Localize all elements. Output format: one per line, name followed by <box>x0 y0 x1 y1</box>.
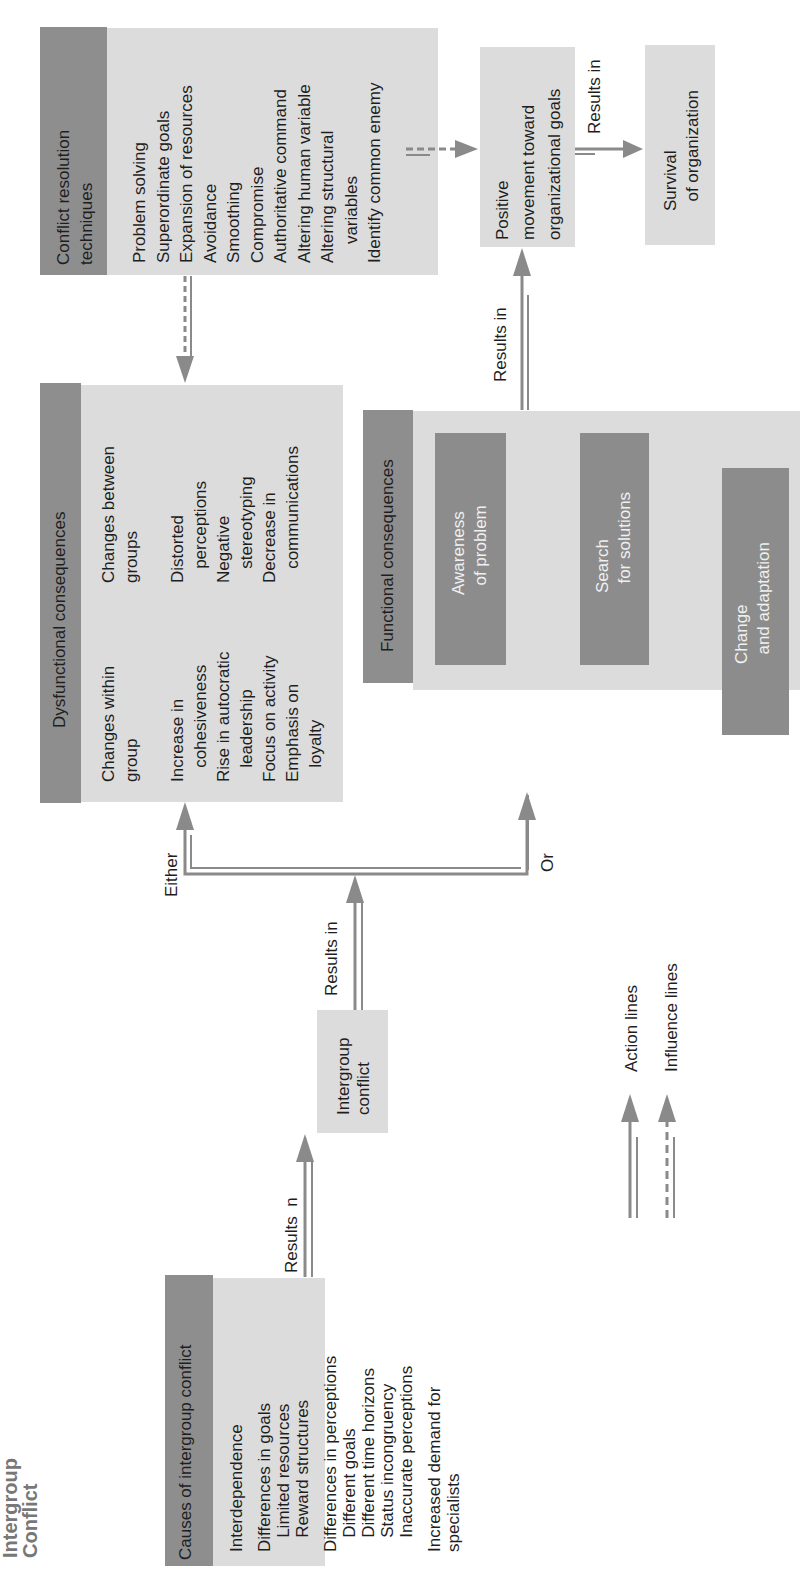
arrowhead-or <box>518 792 536 820</box>
legend-influence-line <box>667 1110 674 1218</box>
arrowhead-causes-to-conflict <box>296 1134 314 1162</box>
arrowhead-functional-to-positive <box>513 248 531 276</box>
connector-lines <box>0 0 809 1591</box>
arrowhead-resolution-to-positive <box>455 140 478 158</box>
arrowhead-conflict-to-junction <box>346 875 364 903</box>
either-or-split-line <box>185 795 528 874</box>
arrow-resolution-to-dysfunctional <box>185 276 191 368</box>
arrow-conflict-to-junction <box>355 890 362 1010</box>
legend-action-arrowhead <box>621 1094 639 1122</box>
arrowhead-either <box>176 802 194 830</box>
legend-influence-arrowhead <box>658 1094 676 1122</box>
legend-action-line <box>630 1110 637 1218</box>
arrow-functional-to-positive <box>522 262 528 410</box>
arrowhead-resolution-to-dysfunctional <box>176 356 194 383</box>
arrow-causes-to-conflict <box>305 1148 312 1277</box>
arrow-positive-to-survival <box>575 149 630 154</box>
arrowhead-positive-to-survival <box>623 140 643 158</box>
